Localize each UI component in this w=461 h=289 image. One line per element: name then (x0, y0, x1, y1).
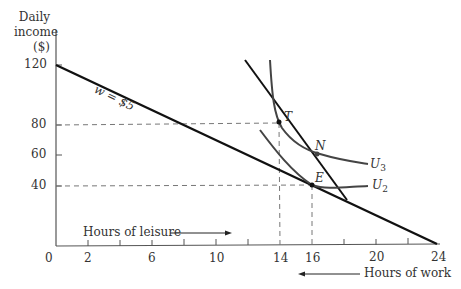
x-tick-16: 16 (305, 251, 320, 265)
x-tick-20: 20 (369, 250, 384, 264)
work-arrowhead-icon (298, 272, 305, 277)
u2-subscript: 2 (382, 184, 388, 194)
y-tick-60: 60 (31, 147, 46, 161)
point-e-label: E (315, 171, 324, 185)
hours-of-work-label: Hours of work (364, 266, 451, 280)
curve-u3-label: U3 (370, 157, 386, 173)
x-tick-0: 0 (45, 251, 53, 265)
curve-u2-label: U2 (372, 178, 388, 194)
y-tick-40: 40 (31, 178, 46, 192)
y-label-line3: ($) (18, 40, 50, 55)
y-tick-120: 120 (24, 57, 47, 71)
u3-letter: U (370, 157, 380, 171)
indifference-curve-u2 (260, 130, 368, 188)
y-label-line1: Daily (18, 10, 50, 25)
y-label-line2: income (14, 25, 50, 40)
x-tick-2: 2 (84, 251, 92, 265)
y-ticks (56, 65, 62, 186)
x-tick-24: 24 (431, 250, 446, 264)
point-t-label: T (284, 110, 292, 124)
point-e (310, 183, 315, 188)
u2-letter: U (372, 178, 382, 192)
diagram-canvas (0, 0, 461, 289)
labor-leisure-diagram: Daily income ($) 120 80 60 40 0 2 6 10 1… (0, 0, 461, 289)
point-n-label: N (315, 139, 326, 153)
y-axis-label: Daily income ($) (18, 10, 50, 55)
y-tick-80: 80 (31, 117, 46, 131)
x-tick-10: 10 (209, 251, 224, 265)
x-tick-6: 6 (148, 251, 156, 265)
point-t (277, 120, 282, 125)
x-tick-14: 14 (273, 251, 288, 265)
leisure-arrowhead-icon (225, 231, 232, 236)
hours-of-leisure-label: Hours of leisure (83, 225, 181, 239)
u3-subscript: 3 (380, 163, 386, 173)
